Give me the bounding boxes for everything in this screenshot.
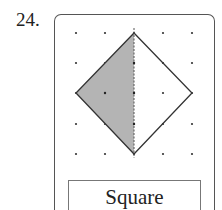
dot-grid-figure <box>0 0 222 210</box>
shape-label-box: Square <box>68 180 201 210</box>
